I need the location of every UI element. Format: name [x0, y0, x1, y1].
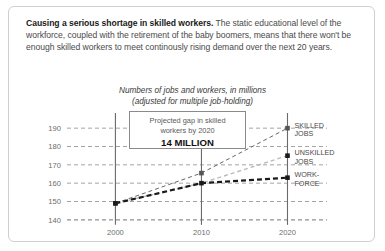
- svg-text:2010: 2010: [193, 228, 210, 237]
- svg-text:180: 180: [48, 142, 61, 151]
- infographic-card: Causing a serious shortage in skilled wo…: [8, 6, 375, 242]
- svg-text:140: 140: [48, 216, 61, 225]
- svg-text:WORK-: WORK-: [294, 170, 319, 179]
- annotation-line1: Projected gap in skilled: [130, 116, 245, 126]
- svg-text:SKILLED: SKILLED: [294, 121, 324, 130]
- series-labels: SKILLEDJOBSUNSKILLEDJOBSWORK-FORCE: [294, 121, 334, 188]
- svg-text:160: 160: [48, 179, 61, 188]
- annotation-value: 14 MILLION: [130, 137, 245, 148]
- annotation-box: Projected gap in skilled workers by 2020…: [129, 111, 246, 149]
- svg-text:UNSKILLED: UNSKILLED: [294, 148, 334, 157]
- annotation-line2: workers by 2020: [130, 126, 245, 136]
- y-axis-tick-labels: 190180170160150140: [48, 124, 61, 225]
- svg-text:190: 190: [48, 124, 61, 133]
- x-axis-tick-labels: 200020102020: [107, 228, 296, 237]
- svg-text:JOBS: JOBS: [294, 129, 313, 138]
- svg-text:2020: 2020: [279, 228, 296, 237]
- svg-text:FORCE: FORCE: [294, 179, 319, 188]
- svg-text:JOBS: JOBS: [294, 157, 313, 166]
- svg-text:150: 150: [48, 197, 61, 206]
- svg-text:170: 170: [48, 161, 61, 170]
- svg-text:2000: 2000: [107, 228, 124, 237]
